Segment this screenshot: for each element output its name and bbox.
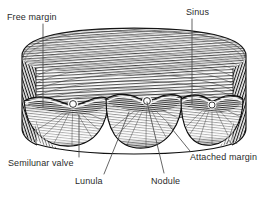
label-sinus: Sinus [186,7,209,17]
label-nodule: Nodule [151,176,180,186]
label-free-margin: Free margin [7,12,57,22]
nodule-left [68,99,78,109]
semilunar-valve-illustration [0,0,274,200]
label-semilunar-valve: Semilunar valve [8,158,74,168]
label-attached-margin: Attached margin [190,152,257,162]
nodule-right [207,100,216,109]
label-lunula: Lunula [75,176,103,186]
figure-page: Free margin Sinus Semilunar valve Lunula… [0,0,274,200]
nodule-center [142,96,152,106]
